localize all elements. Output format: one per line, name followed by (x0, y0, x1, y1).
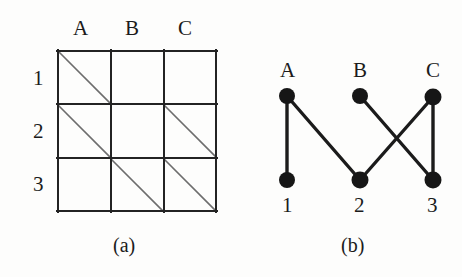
panel-b-graph: A B C (231, 0, 462, 277)
graph-node-1 (279, 172, 295, 188)
matrix-grid (57, 50, 217, 212)
matrix-column-header-b: B (125, 18, 139, 39)
matrix-row-header-2: 2 (33, 121, 44, 142)
matrix-cell-diagonal-3c (164, 159, 216, 211)
matrix-cell-diagonal-2c (164, 105, 216, 157)
panel-b-caption: (b) (341, 235, 364, 255)
graph-edges (287, 96, 433, 180)
matrix-cell-diagonal-3b (111, 159, 163, 211)
graph-node-b (352, 88, 368, 104)
graph-bottom-node-label-2: 2 (354, 195, 365, 216)
matrix-column-header-a: A (73, 18, 88, 39)
matrix-cell-diagonal-1a (58, 51, 110, 103)
figure-container: A B C 1 2 3 (0, 0, 462, 277)
graph-node-a (279, 88, 295, 104)
panel-a-caption: (a) (113, 235, 135, 255)
graph-node-3 (425, 172, 442, 189)
matrix-row-header-3: 3 (33, 174, 44, 195)
graph-nodes (279, 88, 442, 189)
graph-node-c (425, 89, 442, 106)
matrix-column-header-c: C (178, 18, 192, 39)
panel-a-matrix: A B C 1 2 3 (0, 0, 231, 277)
graph-edge-a-2 (287, 96, 360, 180)
graph-bottom-node-label-1: 1 (282, 195, 293, 216)
matrix-diagonals (58, 51, 216, 211)
graph-node-2 (352, 172, 369, 189)
graph-bottom-node-label-3: 3 (427, 195, 438, 216)
matrix-row-header-1: 1 (33, 68, 44, 89)
matrix-cell-diagonal-2a (58, 105, 110, 157)
